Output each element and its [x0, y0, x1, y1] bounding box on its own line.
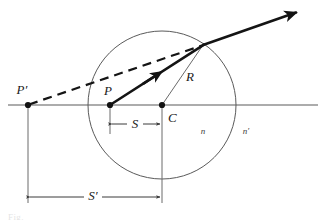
point-marker-object [107, 102, 113, 108]
object-distance-label: S [132, 116, 139, 131]
radius-label: R [185, 69, 194, 84]
image-point-label: P′ [16, 82, 28, 97]
center-point-label: C [168, 110, 177, 125]
image-distance-label: S′ [88, 188, 98, 203]
radius-line [162, 45, 203, 105]
optics-figure: P′ P C R S S′ n n′ Fig. [0, 0, 327, 220]
point-marker-center [159, 102, 165, 108]
index-inside-label: n [201, 126, 206, 136]
refraction-diagram-canvas: P′ P C R S S′ n n′ [0, 0, 327, 220]
incident-ray-direction-arrow [143, 75, 158, 84]
virtual-ray-dashed [29, 46, 202, 105]
object-point-label: P [103, 83, 112, 98]
figure-caption: Fig. [8, 213, 24, 220]
refracted-ray [203, 13, 296, 45]
point-marker-image [25, 102, 31, 108]
index-outside-label: n′ [243, 126, 251, 136]
